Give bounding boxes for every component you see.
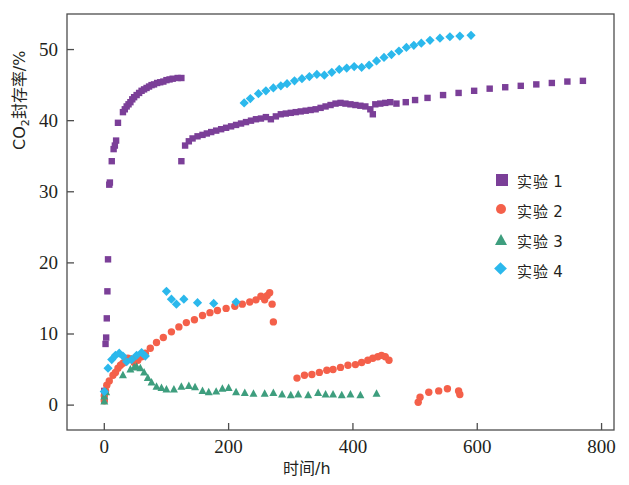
svg-text:800: 800 — [587, 436, 616, 457]
legend-item-label: 实验 3 — [517, 230, 563, 251]
y-axis-title: CO2封存率/% — [6, 51, 32, 150]
legend-item-label: 实验 1 — [517, 170, 563, 191]
legend-item-label: 实验 2 — [517, 200, 563, 221]
y-axis-title-subscript: 2 — [19, 119, 32, 126]
y-axis-title-rest: 封存率/% — [10, 51, 29, 120]
diamond-marker — [494, 264, 508, 278]
legend-item-label: 实验 4 — [517, 260, 563, 281]
chart-legend: 实验 1实验 2实验 3实验 4 — [494, 170, 563, 281]
svg-text:40: 40 — [39, 110, 58, 131]
svg-text:30: 30 — [39, 181, 58, 202]
svg-text:20: 20 — [39, 252, 58, 273]
circle-marker — [494, 204, 508, 218]
legend-item-3[interactable]: 实验 3 — [494, 230, 563, 251]
svg-text:50: 50 — [39, 39, 58, 60]
svg-text:600: 600 — [463, 436, 492, 457]
chart-figure: 020040060080001020304050 CO2封存率/% 时间/h 实… — [0, 0, 629, 485]
legend-item-4[interactable]: 实验 4 — [494, 260, 563, 281]
svg-text:200: 200 — [214, 436, 243, 457]
legend-item-2[interactable]: 实验 2 — [494, 200, 563, 221]
svg-text:0: 0 — [49, 394, 59, 415]
legend-item-1[interactable]: 实验 1 — [494, 170, 563, 191]
x-axis-title: 时间/h — [283, 455, 331, 479]
svg-text:10: 10 — [39, 323, 58, 344]
y-axis-title-main: CO — [10, 126, 29, 150]
square-marker — [494, 174, 508, 188]
svg-text:0: 0 — [100, 436, 110, 457]
svg-text:400: 400 — [339, 436, 368, 457]
triangle-marker — [494, 234, 508, 248]
